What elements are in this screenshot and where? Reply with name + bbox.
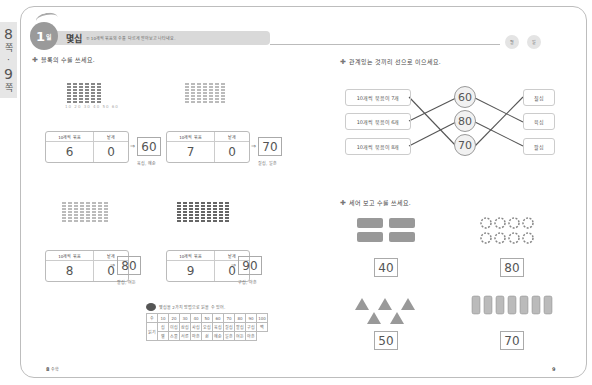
count-answer-box[interactable]: 80 [500,258,524,277]
subject-label: 수학 [51,367,59,372]
counting-pictures [0,0,592,385]
right-page-number: 9 [552,366,555,372]
count-answer-box[interactable]: 70 [500,331,524,350]
page-number: 8 [46,366,49,372]
left-page-number: 8 수학 [46,366,59,372]
count-answer-box[interactable]: 50 [374,331,398,350]
count-answer-box[interactable]: 40 [374,258,398,277]
